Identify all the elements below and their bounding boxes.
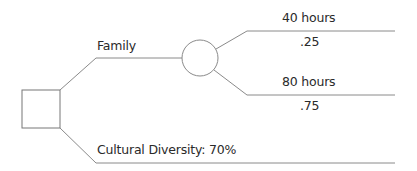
outcome-40-label: 40 hours: [282, 10, 335, 25]
cultural-diversity-label: Cultural Diversity: 70%: [97, 142, 236, 157]
decision-node-square: [22, 90, 60, 128]
chance-node-circle: [182, 40, 218, 76]
family-label: Family: [97, 38, 136, 53]
outcome-80-label: 80 hours: [282, 74, 335, 89]
outcome-80-probability: .75: [300, 98, 319, 113]
family-branch-line: [60, 58, 182, 90]
outcome-40-probability: .25: [300, 34, 319, 49]
